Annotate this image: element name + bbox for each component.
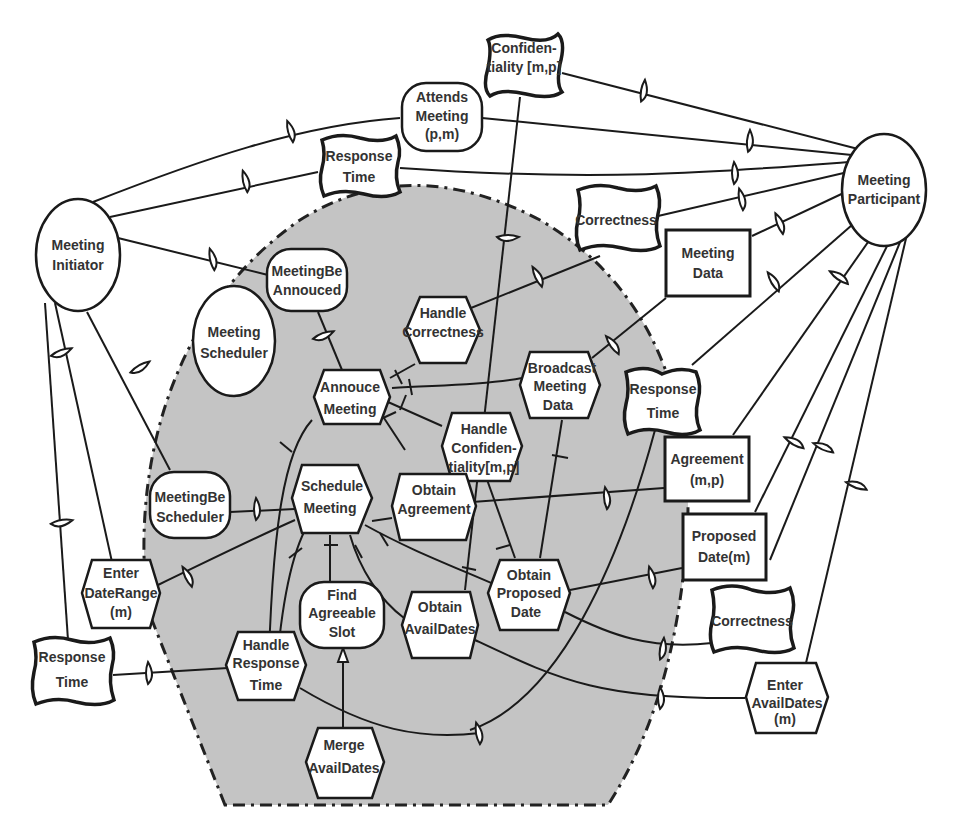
task-obtain-proposed-date[interactable]: Obtain Proposed Date [488, 560, 570, 630]
svg-text:Date(m): Date(m) [698, 549, 750, 565]
task-broadcast-meeting-data[interactable]: Broadcast Meeting Data [520, 352, 600, 418]
svg-text:Time: Time [647, 405, 680, 421]
svg-text:Time: Time [250, 677, 283, 693]
svg-text:Response: Response [630, 381, 697, 397]
svg-text:Find: Find [327, 587, 357, 603]
svg-text:Meeting: Meeting [324, 401, 377, 417]
softgoal-response-time-right[interactable]: Response Time [624, 368, 700, 434]
svg-text:tiality[m,p]: tiality[m,p] [449, 459, 520, 475]
svg-text:Correctness: Correctness [711, 613, 793, 629]
softgoal-attends-meeting[interactable]: Attends Meeting (p,m) [402, 83, 482, 151]
resource-agreement[interactable]: Agreement (m,p) [665, 437, 749, 501]
svg-text:Participant: Participant [848, 191, 921, 207]
svg-text:Date: Date [511, 604, 542, 620]
istar-diagram: Meeting Initiator Meeting Participant Me… [0, 0, 957, 836]
svg-text:Attends: Attends [416, 89, 468, 105]
svg-text:Meeting: Meeting [534, 378, 587, 394]
svg-text:Response: Response [326, 148, 393, 164]
svg-text:Scheduler: Scheduler [200, 345, 268, 361]
svg-text:MeetingBe: MeetingBe [272, 263, 343, 279]
softgoal-correctness-top[interactable]: Correctness [575, 185, 660, 250]
svg-text:tiality [m,p]: tiality [m,p] [487, 59, 562, 75]
svg-text:Annouced: Annouced [273, 282, 341, 298]
svg-text:Time: Time [56, 674, 89, 690]
softgoal-correctness-bottom[interactable]: Correctness [710, 586, 794, 653]
svg-text:Agreeable: Agreeable [308, 605, 376, 621]
task-enter-date-range[interactable]: Enter DateRange (m) [82, 560, 160, 628]
actor-meeting-participant[interactable]: Meeting Participant [842, 134, 926, 246]
softgoal-confidentiality[interactable]: Confiden- tiality [m,p] [485, 34, 562, 97]
svg-text:(p,m): (p,m) [425, 126, 459, 142]
svg-text:Merge: Merge [323, 737, 364, 753]
svg-text:Confiden-: Confiden- [491, 40, 557, 56]
svg-text:Confiden-: Confiden- [451, 440, 517, 456]
svg-text:DateRange: DateRange [84, 585, 157, 601]
task-enter-avail-dates[interactable]: Enter AvailDates (m) [746, 663, 828, 733]
svg-text:Data: Data [693, 265, 724, 281]
svg-text:Handle: Handle [243, 637, 290, 653]
task-handle-confidentiality[interactable]: Handle Confiden- tiality[m,p] [442, 413, 522, 481]
svg-text:Annouce: Annouce [320, 379, 380, 395]
svg-text:Obtain: Obtain [507, 567, 551, 583]
svg-text:Meeting: Meeting [304, 500, 357, 516]
svg-text:Scheduler: Scheduler [156, 509, 224, 525]
resource-meeting-data[interactable]: Meeting Data [666, 230, 750, 296]
actor-meeting-initiator[interactable]: Meeting Initiator [36, 199, 120, 311]
svg-text:AvailDates: AvailDates [751, 695, 822, 711]
svg-text:AvailDates: AvailDates [404, 621, 475, 637]
svg-text:Data: Data [543, 397, 574, 413]
svg-text:Agreement: Agreement [397, 501, 470, 517]
task-annouce-meeting[interactable]: Annouce Meeting [314, 370, 390, 424]
task-obtain-avail-dates[interactable]: Obtain AvailDates [402, 592, 478, 658]
svg-text:Proposed: Proposed [497, 585, 562, 601]
svg-text:Enter: Enter [103, 565, 139, 581]
svg-text:Meeting: Meeting [208, 324, 261, 340]
task-merge-avail-dates[interactable]: Merge AvailDates [306, 728, 384, 798]
resource-proposed-date[interactable]: Proposed Date(m) [683, 514, 766, 580]
svg-text:Handle: Handle [461, 421, 508, 437]
svg-text:Broadcast: Broadcast [528, 360, 597, 376]
svg-text:Meeting: Meeting [858, 172, 911, 188]
svg-text:Slot: Slot [329, 624, 356, 640]
task-schedule-meeting[interactable]: Schedule Meeting [292, 465, 372, 533]
svg-text:Agreement: Agreement [670, 451, 743, 467]
svg-text:Schedule: Schedule [301, 478, 363, 494]
svg-text:(m): (m) [774, 711, 796, 727]
svg-text:Enter: Enter [767, 677, 803, 693]
svg-text:Response: Response [233, 655, 300, 671]
goal-find-agreeable-slot[interactable]: Find Agreeable Slot [300, 582, 384, 648]
svg-text:Response: Response [39, 649, 106, 665]
svg-text:AvailDates: AvailDates [308, 760, 379, 776]
svg-text:MeetingBe: MeetingBe [155, 489, 226, 505]
svg-text:Handle: Handle [420, 305, 467, 321]
actor-meeting-scheduler[interactable]: Meeting Scheduler [193, 286, 275, 396]
task-obtain-agreement[interactable]: Obtain Agreement [392, 474, 476, 540]
svg-text:Obtain: Obtain [412, 482, 456, 498]
svg-text:Proposed: Proposed [692, 528, 757, 544]
svg-text:(m): (m) [110, 604, 132, 620]
goal-meeting-be-scheduler[interactable]: MeetingBe Scheduler [150, 472, 230, 538]
goal-meeting-be-annouced[interactable]: MeetingBe Annouced [267, 249, 347, 311]
svg-text:Meeting: Meeting [52, 237, 105, 253]
svg-text:Correctness: Correctness [575, 212, 657, 228]
svg-text:Meeting: Meeting [682, 245, 735, 261]
softgoal-response-time-top[interactable]: Response Time [320, 135, 400, 196]
svg-text:(m,p): (m,p) [690, 472, 724, 488]
softgoal-response-time-left[interactable]: Response Time [32, 637, 114, 704]
svg-text:Meeting: Meeting [416, 108, 469, 124]
task-handle-response-time[interactable]: Handle Response Time [226, 632, 306, 700]
svg-text:Initiator: Initiator [52, 257, 104, 273]
svg-text:Obtain: Obtain [418, 599, 462, 615]
svg-text:Correctness: Correctness [402, 324, 484, 340]
svg-text:Time: Time [343, 169, 376, 185]
